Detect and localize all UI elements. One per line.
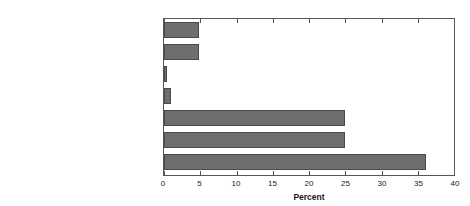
bar-onchocerciasis	[164, 154, 426, 170]
bar-loiasis	[164, 132, 345, 148]
x-axis-tick-top	[345, 19, 346, 23]
x-axis-tick-label: 15	[268, 179, 277, 188]
x-axis-tick-top	[382, 19, 383, 23]
x-axis-tick-label: 20	[305, 179, 314, 188]
bar-row	[164, 132, 454, 148]
x-axis-tick-label: 5	[197, 179, 201, 188]
x-axis-tick	[237, 171, 238, 175]
x-axis-tick	[200, 171, 201, 175]
x-axis-tick-top	[309, 19, 310, 23]
x-axis-tick-top	[418, 19, 419, 23]
bar-infection-with-other-filarial-spp	[164, 44, 199, 60]
x-axis-tick-label: 35	[414, 179, 423, 188]
x-axis-tick-top	[237, 19, 238, 23]
bar-row	[164, 22, 454, 38]
bar-row	[164, 44, 454, 60]
bar-row	[164, 66, 454, 82]
x-axis-tick	[382, 171, 383, 175]
x-axis-tick-label: 10	[232, 179, 241, 188]
x-axis-tick	[309, 171, 310, 175]
x-axis-tick-label: 40	[451, 179, 460, 188]
bar-row	[164, 154, 454, 170]
x-axis-tick	[273, 171, 274, 175]
bar-onchocerciasis-loiasis	[164, 66, 167, 82]
bar-chart-figure: Filarial infection unspecified Infection…	[0, 0, 470, 206]
x-axis-tick-top	[164, 19, 165, 23]
bar-row	[164, 88, 454, 104]
x-axis-tick-label: 25	[341, 179, 350, 188]
x-axis-title: Percent	[163, 192, 455, 202]
bars-layer	[164, 19, 454, 175]
bar-loiasis-infection-with-other-filarial-spp	[164, 88, 171, 104]
x-axis-tick	[418, 171, 419, 175]
x-axis-tick-top	[273, 19, 274, 23]
x-axis-tick	[164, 171, 165, 175]
x-axis-tick-label: 0	[161, 179, 165, 188]
bar-lymphatic-filariasis	[164, 110, 345, 126]
x-axis-tick	[345, 171, 346, 175]
plot-area	[163, 18, 455, 176]
x-axis-tick-top	[200, 19, 201, 23]
bar-row	[164, 110, 454, 126]
x-axis-tick	[454, 171, 455, 175]
x-axis-tick-label: 30	[378, 179, 387, 188]
bar-filarial-infection-unspecified	[164, 22, 199, 38]
x-axis-tick-top	[454, 19, 455, 23]
